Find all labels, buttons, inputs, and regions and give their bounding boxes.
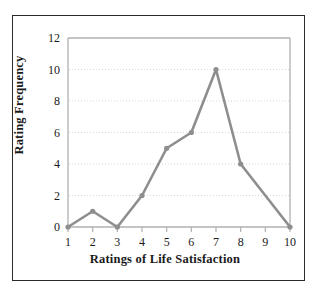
- y-tick-label: 0: [38, 221, 60, 233]
- data-point-marker: [139, 193, 144, 198]
- x-tick-label: 9: [257, 236, 273, 248]
- x-tick-label: 2: [85, 236, 101, 248]
- y-tick-label: 8: [38, 95, 60, 107]
- data-point-marker: [164, 146, 169, 151]
- axis-lines-group: [68, 38, 290, 227]
- x-axis-title-text: Ratings of Life Satisfaction: [40, 252, 290, 267]
- x-tick-label: 4: [134, 236, 150, 248]
- data-point-marker: [90, 209, 95, 214]
- x-tick-label: 1: [60, 236, 76, 248]
- data-point-marker: [213, 67, 218, 72]
- x-tick-label: 6: [183, 236, 199, 248]
- data-point-marker: [238, 161, 243, 166]
- x-tick-label: 3: [109, 236, 125, 248]
- x-tick-label: 7: [208, 236, 224, 248]
- y-tick-label: 4: [38, 158, 60, 170]
- x-tick-label: 10: [282, 236, 298, 248]
- data-point-markers-group: [65, 67, 292, 230]
- chart-figure: 024681012 12345678910 Rating Frequency R…: [0, 0, 320, 299]
- data-point-marker: [115, 224, 120, 229]
- x-tick-label: 8: [233, 236, 249, 248]
- y-axis-title: Rating Frequency: [12, 40, 32, 170]
- data-series-line: [68, 70, 290, 228]
- data-point-marker: [65, 224, 70, 229]
- y-axis-title-text: Rating Frequency: [12, 40, 27, 170]
- gridlines-group: [69, 70, 290, 196]
- data-point-marker: [189, 130, 194, 135]
- y-tick-label: 2: [38, 190, 60, 202]
- x-tick-marks-group: [68, 227, 290, 232]
- data-point-marker: [287, 224, 292, 229]
- x-tick-label: 5: [159, 236, 175, 248]
- y-tick-label: 12: [38, 32, 60, 44]
- y-tick-label: 6: [38, 127, 60, 139]
- y-tick-label: 10: [38, 64, 60, 76]
